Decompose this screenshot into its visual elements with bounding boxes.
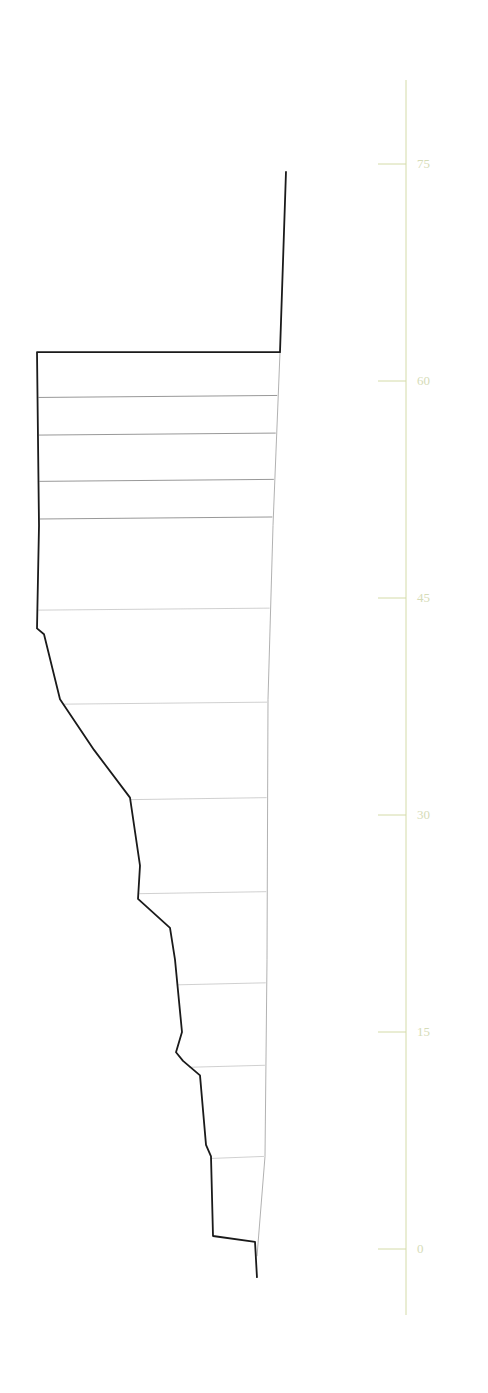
axis-tick-label: 60 [417, 373, 430, 388]
axis-tick-label: 45 [417, 590, 430, 605]
layer-boundary-line [131, 798, 267, 800]
layer-boundary-line [39, 395, 278, 397]
layer-boundary-line [139, 892, 266, 894]
layer-boundary-line [189, 1065, 265, 1067]
layer-boundary-line [40, 517, 272, 519]
layer-boundary-lines [38, 395, 277, 1158]
layer-boundary-line [38, 608, 269, 610]
stratigraphic-profile-chart: 01530456075 [0, 0, 488, 1393]
axis-ticks: 01530456075 [378, 156, 430, 1256]
axis-tick-label: 30 [417, 807, 430, 822]
vertical-scale-axis: 01530456075 [378, 80, 430, 1315]
right-boundary-line [257, 352, 280, 1256]
layer-boundary-line [212, 1156, 264, 1158]
layer-boundary-line [39, 433, 276, 435]
profile-outline [37, 171, 286, 1278]
axis-tick-label: 15 [417, 1024, 430, 1039]
axis-tick-label: 75 [417, 156, 430, 171]
layer-boundary-line [63, 702, 267, 704]
layer-boundary-line [39, 479, 273, 481]
axis-tick-label: 0 [417, 1241, 424, 1256]
layer-boundary-line [178, 983, 266, 985]
